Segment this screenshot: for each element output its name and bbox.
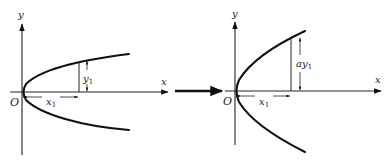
parabola-stretch-diagram: y x O y1 x1 y x O ay1 xyxy=(0,0,390,162)
y-axis-label: y xyxy=(231,8,238,19)
x-axis-label: x xyxy=(161,76,167,87)
y-axis-label: y xyxy=(17,9,24,20)
y1-label: y1 xyxy=(82,73,93,86)
x-axis-label: x xyxy=(375,74,381,85)
right-panel: y x O ay1 x1 xyxy=(223,8,381,152)
origin-label: O xyxy=(10,96,19,109)
left-panel: y x O y1 x1 xyxy=(10,9,168,155)
origin-label: O xyxy=(223,95,232,108)
ay1-label: ay1 xyxy=(296,58,312,71)
